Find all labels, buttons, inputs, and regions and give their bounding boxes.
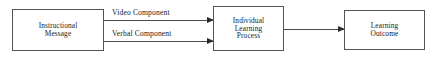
arrow-verbal-component <box>104 41 213 42</box>
edge-label-verbal-component: Verbal Component <box>112 30 172 38</box>
arrow-video-component <box>104 20 213 21</box>
node-learning-outcome: Learning Outcome <box>344 10 425 50</box>
node-individual-learning-process-label: Individual Learning Process <box>231 17 266 41</box>
arrow-process-to-outcome <box>284 29 344 30</box>
node-instructional-message: Instructional Message <box>12 9 104 51</box>
node-instructional-message-label: Instructional Message <box>37 22 80 38</box>
edge-label-video-component: Video Component <box>112 9 170 17</box>
node-individual-learning-process: Individual Learning Process <box>213 6 284 51</box>
node-learning-outcome-label: Learning Outcome <box>369 22 401 38</box>
flowchart-diagram: Instructional Message Video Component Ve… <box>0 0 435 58</box>
